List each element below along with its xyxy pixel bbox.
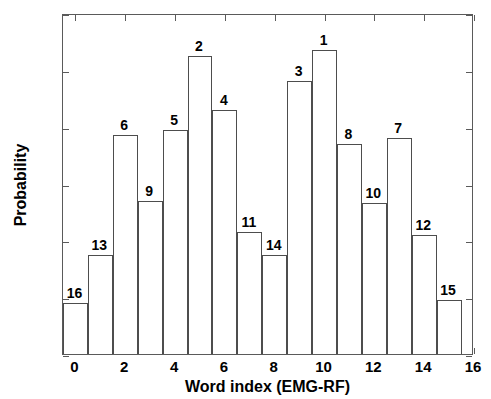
x-tick-mark bbox=[474, 15, 475, 21]
histogram-bar bbox=[212, 110, 237, 354]
bar-annotation: 15 bbox=[433, 283, 463, 297]
histogram-bar bbox=[113, 135, 138, 354]
x-tick-mark bbox=[225, 15, 226, 21]
histogram-bar bbox=[437, 300, 462, 354]
x-tick-label: 14 bbox=[403, 359, 443, 374]
x-tick-label: 4 bbox=[154, 359, 194, 374]
bar-annotation: 2 bbox=[184, 39, 214, 53]
histogram-bar bbox=[262, 255, 287, 354]
bar-annotation: 4 bbox=[209, 93, 239, 107]
y-tick-mark bbox=[466, 129, 472, 130]
y-axis-label: Probability bbox=[12, 143, 30, 226]
bar-annotation: 3 bbox=[284, 64, 314, 78]
y-tick-mark bbox=[63, 72, 69, 73]
x-tick-label: 2 bbox=[104, 359, 144, 374]
histogram-figure: Probability 16136952411143181071215 Word… bbox=[0, 0, 491, 399]
histogram-bar bbox=[88, 255, 113, 354]
x-tick-label: 6 bbox=[204, 359, 244, 374]
bar-annotation: 8 bbox=[333, 127, 363, 141]
x-tick-label: 16 bbox=[453, 359, 491, 374]
x-tick-mark bbox=[175, 15, 176, 21]
histogram-bar bbox=[287, 81, 312, 354]
y-tick-mark bbox=[63, 15, 69, 16]
bar-annotation: 6 bbox=[109, 118, 139, 132]
x-tick-mark bbox=[125, 15, 126, 21]
y-tick-mark bbox=[466, 15, 472, 16]
histogram-bar bbox=[337, 144, 362, 354]
y-tick-mark bbox=[466, 242, 472, 243]
plot-area: Probability bbox=[62, 14, 473, 355]
histogram-bar bbox=[312, 50, 337, 354]
histogram-bar bbox=[362, 203, 387, 354]
y-tick-mark bbox=[63, 242, 69, 243]
x-tick-label: 12 bbox=[353, 359, 393, 374]
bar-annotation: 5 bbox=[159, 113, 189, 127]
x-tick-mark bbox=[474, 348, 475, 354]
bar-annotation: 16 bbox=[59, 286, 89, 300]
x-tick-label: 0 bbox=[54, 359, 94, 374]
x-tick-mark bbox=[325, 15, 326, 21]
x-tick-label: 8 bbox=[254, 359, 294, 374]
y-tick-mark bbox=[466, 72, 472, 73]
x-tick-label: 10 bbox=[304, 359, 344, 374]
y-tick-mark bbox=[466, 186, 472, 187]
bar-annotation: 11 bbox=[234, 215, 264, 229]
x-tick-mark bbox=[275, 15, 276, 21]
x-tick-mark bbox=[374, 15, 375, 21]
y-tick-mark bbox=[466, 299, 472, 300]
x-tick-mark bbox=[75, 15, 76, 21]
x-tick-mark bbox=[424, 15, 425, 21]
histogram-bar bbox=[163, 130, 188, 354]
bar-annotation: 9 bbox=[134, 184, 164, 198]
histogram-bar bbox=[63, 303, 88, 354]
bar-annotation: 13 bbox=[84, 238, 114, 252]
bar-annotation: 1 bbox=[309, 33, 339, 47]
histogram-bar bbox=[387, 138, 412, 354]
bar-annotation: 7 bbox=[383, 121, 413, 135]
y-tick-mark bbox=[63, 186, 69, 187]
bar-annotation: 10 bbox=[358, 186, 388, 200]
y-tick-mark bbox=[63, 129, 69, 130]
bar-annotation: 14 bbox=[259, 238, 289, 252]
x-axis-label: Word index (EMG-RF) bbox=[62, 378, 473, 396]
histogram-bar bbox=[138, 201, 163, 354]
y-tick-mark bbox=[63, 356, 69, 357]
y-tick-mark bbox=[466, 356, 472, 357]
bar-annotation: 12 bbox=[408, 218, 438, 232]
